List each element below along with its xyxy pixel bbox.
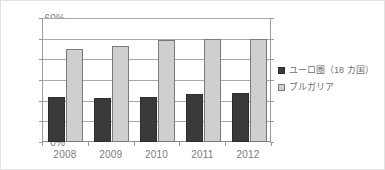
plot-area: [42, 18, 271, 142]
x-axis-label: 2009: [99, 149, 122, 160]
x-tick-mark: [134, 142, 135, 146]
x-axis-label: 2008: [53, 149, 76, 160]
legend-label: ブルガリア: [289, 83, 334, 93]
legend-item[interactable]: ブルガリア: [278, 83, 384, 93]
y-tick-mark: [270, 18, 274, 19]
y-tick-mark: [270, 59, 274, 60]
x-tick-mark: [179, 142, 180, 146]
x-tick-mark: [42, 142, 43, 146]
x-tick-mark: [271, 142, 272, 146]
bar: [232, 93, 249, 142]
bar-group: [48, 18, 83, 142]
bar-chart: 0%10%20%30%40%50%60% 2008200920102011201…: [0, 0, 385, 170]
chart-legend: ユーロ圏（18 カ国）ブルガリア: [278, 66, 384, 100]
bar: [186, 94, 203, 142]
x-axis-label: 2010: [145, 149, 168, 160]
x-tick-mark: [225, 142, 226, 146]
legend-item[interactable]: ユーロ圏（18 カ国）: [278, 66, 384, 76]
light-square-icon: [278, 84, 285, 91]
bar: [158, 40, 175, 142]
bar: [204, 39, 221, 142]
bar: [48, 97, 65, 142]
y-tick-mark: [270, 80, 274, 81]
bar-group: [140, 18, 175, 142]
x-axis-label: 2011: [191, 149, 213, 160]
bar: [94, 98, 111, 142]
bar: [66, 49, 83, 142]
bar-group: [232, 18, 267, 142]
x-axis-label: 2012: [237, 149, 260, 160]
bars-layer: [43, 18, 270, 142]
x-tick-mark: [88, 142, 89, 146]
bar-group: [94, 18, 129, 142]
bar: [140, 97, 157, 142]
dark-square-icon: [278, 67, 285, 74]
bar: [250, 39, 267, 142]
y-tick-mark: [270, 39, 274, 40]
y-tick-mark: [270, 101, 274, 102]
legend-label: ユーロ圏（18 カ国）: [289, 66, 374, 76]
y-tick-mark: [270, 121, 274, 122]
bar: [112, 46, 129, 142]
bar-group: [186, 18, 221, 142]
